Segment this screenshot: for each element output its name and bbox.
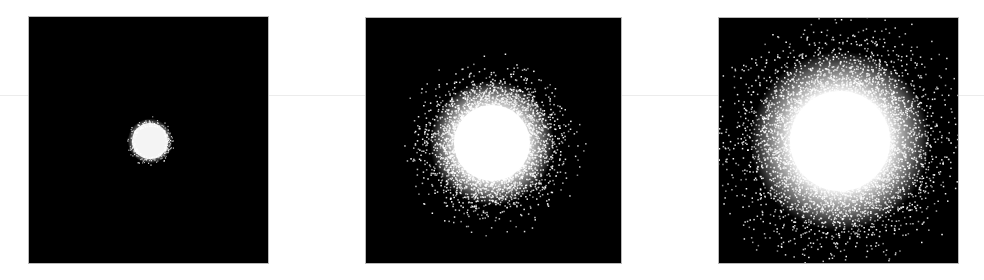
panel-medium-cluster <box>366 18 621 263</box>
panel-small-cluster <box>29 17 268 263</box>
particle-cluster-image <box>719 18 958 263</box>
panel-large-cluster <box>719 18 958 263</box>
particle-cluster-image <box>29 17 268 263</box>
particle-cluster-image <box>366 18 621 263</box>
